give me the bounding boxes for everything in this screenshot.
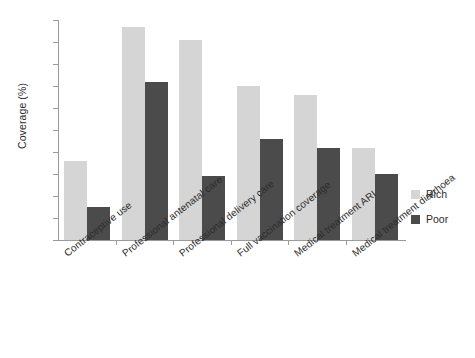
legend-item-rich: Rich — [411, 188, 448, 200]
x-axis-tick-mark — [346, 240, 347, 245]
legend-label-rich: Rich — [426, 188, 447, 200]
legend-item-poor: Poor — [411, 213, 448, 225]
x-axis-tick-mark — [288, 240, 289, 245]
x-axis-line — [58, 240, 406, 241]
bar-rich[interactable] — [294, 95, 317, 240]
legend-swatch-rich-icon — [411, 190, 420, 199]
legend: Rich Poor — [411, 188, 448, 238]
bar-rich[interactable] — [237, 86, 260, 240]
x-axis-tick-mark — [231, 240, 232, 245]
bar-chart: Coverage (%) 0102030405060708090100 Cont… — [0, 0, 475, 358]
x-axis-tick-mark — [173, 240, 174, 245]
legend-swatch-poor-icon — [411, 215, 420, 224]
x-axis-tick-mark — [116, 240, 117, 245]
bar-group — [64, 20, 110, 240]
y-axis-title: Coverage (%) — [16, 56, 28, 176]
legend-label-poor: Poor — [426, 213, 448, 225]
bar-rich[interactable] — [64, 161, 87, 240]
